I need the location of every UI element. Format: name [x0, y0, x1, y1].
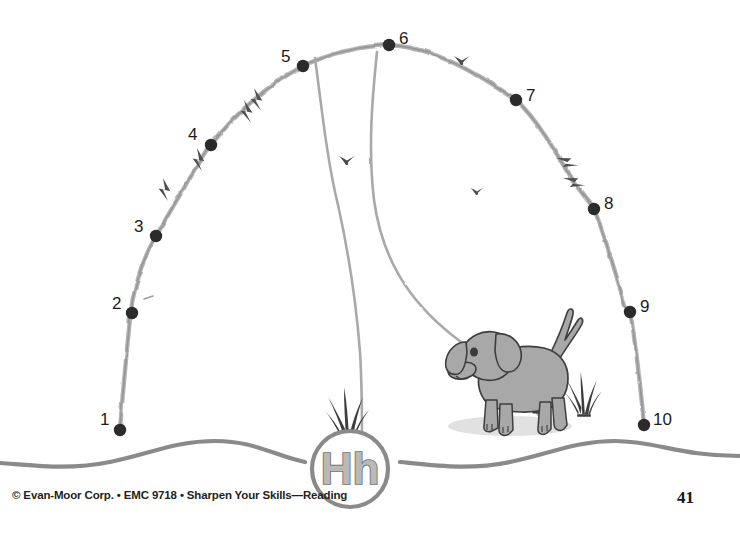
stray-pencil-mark: [144, 296, 153, 299]
numbered-dot: [638, 419, 650, 431]
dot-number-label: 4: [188, 126, 197, 143]
fur-zigzag-mark: [154, 178, 177, 201]
grass-tuft-dog-right: [564, 372, 601, 417]
dog-leg-back-right: [552, 398, 567, 430]
dot-number-label: 6: [399, 30, 408, 47]
numbered-dot: [383, 39, 395, 51]
copyright-footer: © Evan-Moor Corp. • EMC 9718 • Sharpen Y…: [12, 489, 347, 501]
dog-leg-front-left: [484, 400, 498, 432]
dot-number-label: 2: [112, 295, 121, 312]
dot-number-label: 5: [281, 48, 290, 65]
dot-number-label: 7: [526, 87, 535, 104]
bird-icon: [339, 156, 355, 165]
numbered-dot: [150, 230, 162, 242]
numbered-dot: [205, 139, 217, 151]
numbered-dot: [624, 306, 636, 318]
dog-ear-right: [495, 334, 521, 372]
numbered-dot: [114, 424, 126, 436]
numbered-dot: [510, 94, 522, 106]
bird-icon: [470, 188, 483, 195]
numbered-dot: [126, 307, 138, 319]
letter-hh-text: Hh: [321, 444, 380, 493]
birds-group: [339, 56, 484, 195]
dot-number-label: 8: [604, 195, 613, 212]
numbered-dot: [297, 60, 309, 72]
dog-illustration: [446, 309, 583, 436]
dog-eye: [470, 348, 478, 357]
worksheet-artboard: Hh: [0, 0, 740, 536]
numbered-dot: [588, 203, 600, 215]
dot-number-label: 1: [100, 411, 109, 428]
dog-leg-front-right: [499, 404, 513, 435]
page-number: 41: [677, 488, 694, 508]
worksheet-page: Hh 12345678910 © Evan-Moor Corp. • EMC 9…: [0, 0, 740, 536]
dot-number-label: 10: [653, 411, 672, 428]
dot-number-label: 3: [134, 218, 143, 235]
dog-leg-back-left: [538, 402, 551, 434]
dot-number-label: 9: [640, 298, 649, 315]
